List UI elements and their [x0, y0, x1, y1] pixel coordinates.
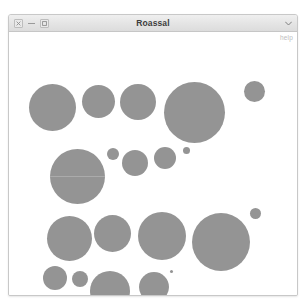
bubble[interactable]	[29, 84, 76, 131]
bubble[interactable]	[50, 149, 105, 204]
bubble[interactable]	[154, 147, 176, 169]
bubble[interactable]	[192, 213, 250, 271]
bubble[interactable]	[138, 212, 186, 260]
bubble[interactable]	[183, 147, 190, 154]
bubble[interactable]	[139, 272, 169, 295]
bubble[interactable]	[164, 82, 225, 143]
bubble[interactable]	[120, 84, 156, 120]
help-link[interactable]: help	[280, 34, 293, 41]
bubble[interactable]	[72, 271, 88, 287]
bubble[interactable]	[244, 81, 265, 102]
bubble[interactable]	[90, 271, 130, 295]
bubble[interactable]	[170, 270, 173, 273]
bubble[interactable]	[107, 148, 119, 160]
window-titlebar[interactable]: Roassal	[9, 15, 297, 32]
bubble[interactable]	[43, 266, 67, 290]
bubble[interactable]	[122, 150, 148, 176]
bubble[interactable]	[47, 216, 92, 261]
chevron-down-icon[interactable]	[284, 19, 292, 27]
bubble[interactable]	[250, 208, 261, 219]
screen: Roassal help	[0, 0, 306, 306]
visualization-canvas[interactable]: help	[9, 32, 297, 295]
roassal-window: Roassal help	[8, 14, 298, 296]
bubble[interactable]	[94, 215, 131, 252]
bubble[interactable]	[82, 85, 115, 118]
window-title: Roassal	[9, 15, 297, 32]
